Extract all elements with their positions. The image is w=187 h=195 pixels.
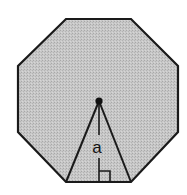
center-point bbox=[95, 97, 102, 104]
octagon-diagram: a bbox=[0, 0, 187, 195]
apothem-label: a bbox=[92, 138, 102, 157]
